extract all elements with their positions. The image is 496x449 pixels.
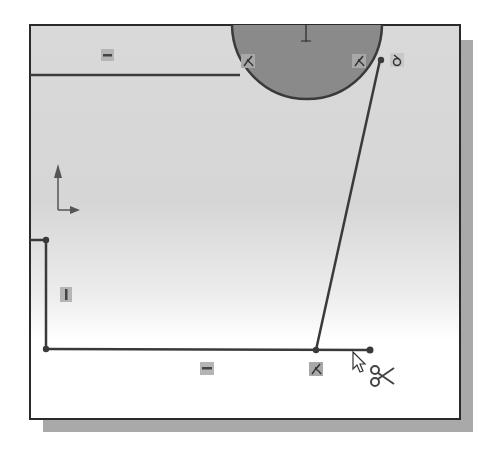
tangent-relation-icon[interactable] [352,54,366,68]
slanted-line[interactable] [316,60,380,350]
tangent-relation-icon[interactable] [241,54,255,68]
sketch-point-slant-bottom[interactable] [313,347,319,353]
sketch-point-slant-top[interactable] [378,57,384,63]
sketch-viewport: Sketch Trim Tool - Power Trim [0,0,496,449]
bottom-horizontal-line[interactable] [46,349,370,350]
sketch-geometry [0,0,496,449]
sketch-circle[interactable] [232,0,382,99]
tangent-relation-icon[interactable] [309,362,323,376]
trim-scissors-icon [371,366,394,386]
sketch-point-left-top[interactable] [43,237,49,243]
horizontal-relation-icon[interactable] [101,49,114,61]
vertical-relation-icon[interactable] [60,287,72,302]
sketch-point-left-bottom[interactable] [43,346,49,352]
sketch-point-bottom-end[interactable] [367,347,374,354]
horizontal-relation-icon[interactable] [200,362,214,375]
cursor-arrow-icon [353,352,365,372]
origin-axes-icon [54,164,80,214]
coincident-relation-icon[interactable] [390,53,404,67]
